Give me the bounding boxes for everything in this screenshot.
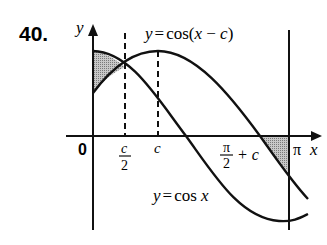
origin-label: 0 (78, 141, 87, 158)
tick-pi-half-plus-c-suffix: + c (237, 146, 259, 163)
tick-pi-half-denominator: 2 (223, 156, 230, 171)
diagram: 40. y x 0 y=cos(x − c) y=cos x c 2 c π 2… (0, 0, 327, 245)
tick-c: c (154, 140, 161, 156)
tick-pi-half-numerator: π (223, 140, 230, 155)
problem-number: 40. (19, 22, 48, 45)
tick-pi: π (293, 141, 301, 158)
y-axis-arrow-icon (88, 24, 98, 36)
tick-c-half-denominator: 2 (121, 158, 128, 173)
tick-c-half-numerator: c (121, 141, 128, 156)
x-axis-label: x (309, 140, 318, 159)
y-axis-label: y (74, 18, 84, 37)
cos-shifted-label: y=cos(x − c) (143, 24, 233, 43)
cos-label: y=cos x (151, 186, 209, 205)
